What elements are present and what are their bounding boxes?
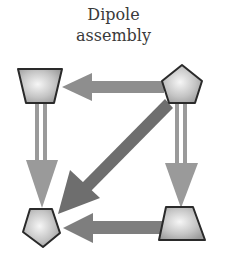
node-top-right bbox=[162, 65, 202, 103]
dipole-assembly-diagram bbox=[0, 0, 227, 258]
arrow-topleft-to-bottomleft bbox=[26, 102, 58, 208]
node-bottom-left bbox=[23, 209, 60, 247]
node-bottom-right bbox=[159, 207, 205, 240]
arrow-topright-to-bottomleft bbox=[58, 99, 173, 214]
arrow-topright-to-topleft bbox=[62, 73, 164, 101]
arrow-bottomright-to-bottomleft bbox=[63, 213, 162, 243]
arrow-topright-to-bottomright bbox=[165, 102, 198, 208]
node-top-left bbox=[18, 69, 62, 103]
